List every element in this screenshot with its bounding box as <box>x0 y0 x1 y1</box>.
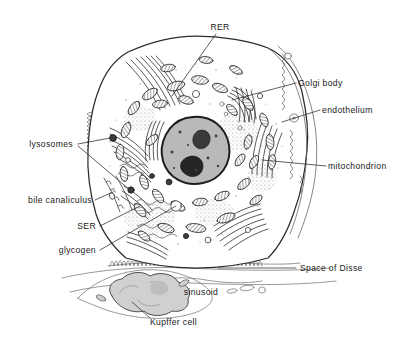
label-mitochondrion: mitochondrion <box>328 162 387 171</box>
label-glycogen: glycogen <box>59 246 96 255</box>
label-endothelium: endothelium <box>322 106 373 115</box>
label-kupffer-cell: Kupffer cell <box>150 318 197 327</box>
label-sinusoid: sinusoid <box>184 288 218 297</box>
nucleolus-upper <box>193 130 210 149</box>
label-golgi-body: Golgi body <box>298 79 343 88</box>
kupffer-cell-shape <box>110 272 190 315</box>
label-space-of-disse: Space of Disse <box>300 264 363 273</box>
label-bile-canaliculus: bile canaliculus <box>28 196 92 205</box>
label-ser: SER <box>77 222 96 231</box>
label-rer: RER <box>210 23 229 32</box>
label-lysosomes: lysosomes <box>29 140 73 149</box>
figure-canvas: RER Golgi body endothelium mitochondrion… <box>0 0 408 340</box>
